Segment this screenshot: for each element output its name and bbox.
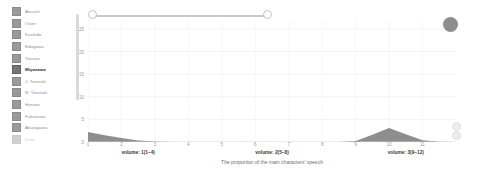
legend-color-swatch: [12, 65, 21, 74]
area-chart-svg: [88, 20, 456, 142]
volume-group-label: volume: 2(5–8): [255, 150, 289, 155]
legend-color-swatch: [12, 7, 21, 16]
chart-page: AtsushiOsierKushidaEdogawaYosanoMiyazawa…: [0, 0, 481, 173]
y-axis-tick-label: 0: [81, 140, 84, 145]
legend-item-label: Yosano: [25, 56, 40, 61]
legend-item-miyazawa[interactable]: Miyazawa: [12, 64, 74, 76]
legend-item-label: Atsushi: [25, 9, 40, 14]
slider-handle-max[interactable]: [263, 10, 272, 19]
slider-handle-min[interactable]: [88, 10, 97, 19]
legend-item-label: N. Tanizaki: [25, 90, 47, 95]
y-axis-tick-label: 5: [81, 117, 84, 122]
legend-item-fukuzawa[interactable]: Fukuzawa: [12, 110, 74, 122]
x-axis-tick-label: 3: [154, 142, 157, 147]
primary-control-button[interactable]: [443, 17, 458, 32]
legend-color-swatch: [12, 54, 21, 63]
legend-color-swatch: [12, 42, 21, 51]
plot-frame: [88, 20, 456, 142]
legend-item-label: Osier: [25, 21, 36, 26]
volume-group-labels: volume: 1(1–4)volume: 2(5–8)volume: 3(9–…: [88, 150, 456, 159]
legend-color-swatch: [12, 112, 21, 121]
y-axis: 2520151050: [70, 20, 86, 142]
x-axis-tick-label: 8: [321, 142, 324, 147]
legend-item-atsushi[interactable]: Atsushi: [12, 6, 74, 18]
chart-caption: The proportion of the main characters' s…: [88, 159, 456, 165]
legend-color-swatch: [12, 135, 21, 144]
slider-track[interactable]: [92, 15, 268, 17]
legend-color-swatch: [12, 100, 21, 109]
character-legend[interactable]: AtsushiOsierKushidaEdogawaYosanoMiyazawa…: [12, 6, 74, 168]
legend-item-haruno[interactable]: Haruno: [12, 99, 74, 111]
legend-item-kenji[interactable]: Kenji: [12, 134, 74, 146]
plot-area: [88, 20, 456, 142]
legend-item-j-tanizaki[interactable]: J. Tanizaki: [12, 76, 74, 88]
x-axis-tick-label: 11: [420, 142, 425, 147]
x-axis-tick-label: 9: [354, 142, 357, 147]
legend-color-swatch: [12, 88, 21, 97]
legend-item-label: Fukuzawa: [25, 114, 45, 119]
x-axis-tick-label: 7: [287, 142, 290, 147]
volume-group-label: volume: 1(1–4): [121, 150, 155, 155]
volume-group-label: volume: 3(9–12): [388, 150, 424, 155]
x-axis-tick-label: 6: [254, 142, 257, 147]
area-series-miyazawa[interactable]: [88, 128, 456, 142]
legend-item-edogawa[interactable]: Edogawa: [12, 41, 74, 53]
legend-item-label: J. Tanizaki: [25, 79, 46, 84]
legend-item-osier[interactable]: Osier: [12, 18, 74, 30]
secondary-control-bottom[interactable]: [452, 131, 461, 140]
legend-color-swatch: [12, 30, 21, 39]
y-axis-tick-label: 25: [79, 27, 84, 32]
x-axis-tick-label: 10: [387, 142, 392, 147]
x-axis-tick-label: 2: [120, 142, 123, 147]
legend-item-label: Kushida: [25, 32, 41, 37]
y-axis-tick-label: 10: [79, 94, 84, 99]
legend-item-label: Kenji: [25, 137, 35, 142]
legend-item-label: Akutagawa: [25, 125, 47, 130]
secondary-control-top[interactable]: [452, 122, 461, 131]
legend-item-label: Edogawa: [25, 44, 44, 49]
x-axis-tick-label: 1: [87, 142, 90, 147]
legend-item-akutagawa[interactable]: Akutagawa: [12, 122, 74, 134]
legend-color-swatch: [12, 19, 21, 28]
legend-item-yosano[interactable]: Yosano: [12, 52, 74, 64]
legend-item-label: Miyazawa: [25, 67, 46, 72]
legend-color-swatch: [12, 123, 21, 132]
y-axis-tick-label: 15: [79, 72, 84, 77]
legend-item-n-tanizaki[interactable]: N. Tanizaki: [12, 87, 74, 99]
legend-item-label: Haruno: [25, 102, 40, 107]
y-axis-tick-label: 20: [79, 49, 84, 54]
x-axis-tick-label: 5: [221, 142, 224, 147]
x-axis-tick-label: 4: [187, 142, 190, 147]
legend-item-kushida[interactable]: Kushida: [12, 29, 74, 41]
legend-color-swatch: [12, 77, 21, 86]
